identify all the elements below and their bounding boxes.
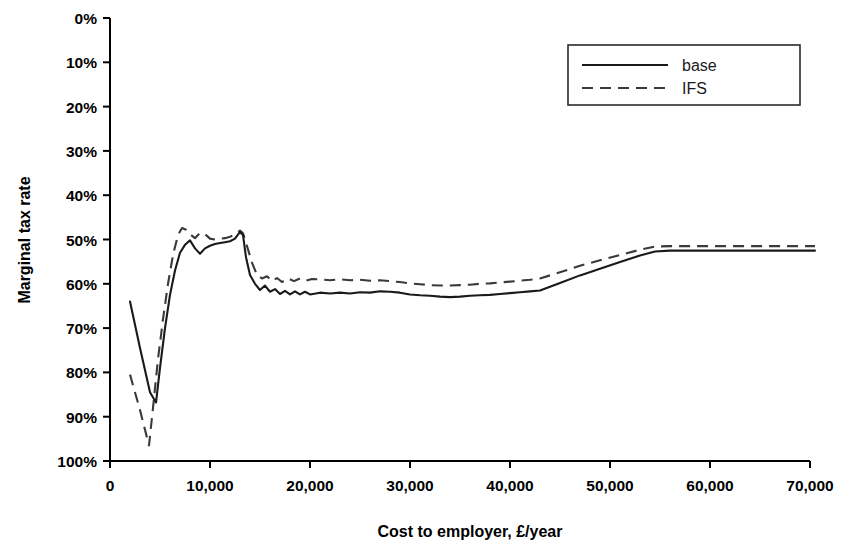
x-tick-label: 40,000 (486, 477, 533, 494)
series-line-ifs (130, 228, 815, 446)
legend-label-ifs: IFS (682, 80, 707, 97)
y-tick-label: 0% (75, 10, 98, 27)
x-axis-tick-labels: 010,00020,00030,00040,00050,00060,00070,… (106, 477, 834, 494)
x-tick-label: 30,000 (386, 477, 433, 494)
x-tick-label: 10,000 (186, 477, 233, 494)
x-tick-label: 20,000 (286, 477, 333, 494)
x-tick-label: 50,000 (586, 477, 633, 494)
y-tick-label: 50% (66, 232, 97, 249)
x-tick-label: 0 (106, 477, 115, 494)
chart-figure: 100%90%80%70%60%50%40%30%20%10%0% 010,00… (0, 0, 854, 560)
y-tick-label: 70% (66, 320, 97, 337)
x-axis-ticks (110, 461, 810, 468)
y-axis-ticks (103, 18, 110, 461)
chart-legend: base IFS (568, 45, 800, 105)
series-line-base (130, 232, 815, 403)
y-tick-label: 90% (66, 409, 97, 426)
chart-plot-area: 100%90%80%70%60%50%40%30%20%10%0% 010,00… (0, 0, 854, 560)
y-tick-label: 20% (66, 99, 97, 116)
y-axis-tick-labels: 100%90%80%70%60%50%40%30%20%10%0% (57, 10, 97, 470)
x-tick-label: 60,000 (686, 477, 733, 494)
y-tick-label: 10% (66, 54, 97, 71)
y-tick-label: 80% (66, 364, 97, 381)
x-tick-label: 70,000 (786, 477, 833, 494)
y-axis-title: Marginal tax rate (16, 176, 33, 303)
x-axis-title: Cost to employer, £/year (378, 523, 563, 540)
y-tick-label: 30% (66, 143, 97, 160)
y-tick-label: 40% (66, 187, 97, 204)
y-tick-label: 100% (57, 453, 97, 470)
y-tick-label: 60% (66, 276, 97, 293)
legend-label-base: base (682, 57, 717, 74)
